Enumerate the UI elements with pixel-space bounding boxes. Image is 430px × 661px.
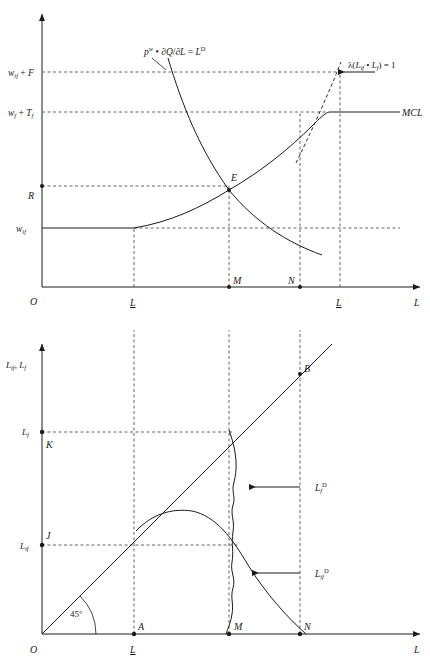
angle-label: 45° (70, 609, 83, 619)
upper-panel: wif + F wf + Tf R wif O L M N L L E pw •… (8, 14, 423, 308)
point-R-marker (40, 184, 44, 188)
point-M-axis (227, 285, 231, 289)
point-M-marker-lower (227, 632, 231, 636)
lower-x-tick-L-underbar: L (129, 644, 136, 655)
y-tick-L-f-lower: Lf (21, 427, 30, 438)
y-tick-w-f-plus-T-f: wf + Tf (8, 108, 35, 119)
y-tick-w-if-plus-F: wif + F (8, 68, 34, 79)
y-tick-L-if-lower: Lif (19, 541, 30, 552)
point-B (298, 372, 302, 376)
point-E-label: E (230, 172, 237, 183)
lower-x-axis-label-L: L (413, 644, 420, 655)
point-N-marker-lower (298, 632, 302, 636)
informal-demand-curve (136, 510, 306, 634)
lambda-label: λ(Lif • Lf) = 1 (348, 60, 396, 71)
x-tick-M-label: M (232, 275, 242, 286)
x-origin-O: O (30, 296, 37, 307)
x-tick-L-bar: L (335, 297, 342, 308)
economics-figure: wif + F wf + Tf R wif O L M N L L E pw •… (0, 0, 430, 661)
demand-label-leader (152, 58, 166, 70)
y-tick-w-if: wif (16, 224, 27, 235)
lower-panel: Lif, Lf Lf K Lif J O L A M N L B 45° LfD… (5, 330, 420, 655)
point-M-label-lower: M (233, 621, 243, 632)
mcl-curve (42, 112, 400, 228)
family-demand-curve (226, 430, 236, 634)
lower-origin-O: O (30, 644, 37, 655)
point-N-label-lower: N (303, 621, 312, 632)
x-axis-label-L: L (413, 297, 420, 308)
point-K-marker (40, 430, 44, 434)
family-demand-label: LfD (314, 481, 327, 494)
y-tick-R: R (27, 190, 34, 201)
informal-demand-label: LifD (314, 567, 329, 580)
point-J-label: J (46, 530, 51, 541)
labor-demand-label: pw • ∂Q/∂L = LD (143, 45, 206, 57)
point-J-marker (40, 543, 44, 547)
forty-five-degree-line (42, 344, 332, 634)
point-A-label: A (137, 621, 145, 632)
point-B-label: B (304, 363, 310, 374)
point-E (227, 188, 231, 192)
point-K-label: K (45, 439, 54, 450)
point-A-marker (132, 632, 136, 636)
x-tick-L-underbar: L (129, 297, 136, 308)
lower-y-axis-label: Lif, Lf (5, 360, 27, 371)
mcl-label: MCL (401, 107, 423, 118)
point-N-axis (298, 285, 302, 289)
x-tick-N-label: N (287, 275, 296, 286)
